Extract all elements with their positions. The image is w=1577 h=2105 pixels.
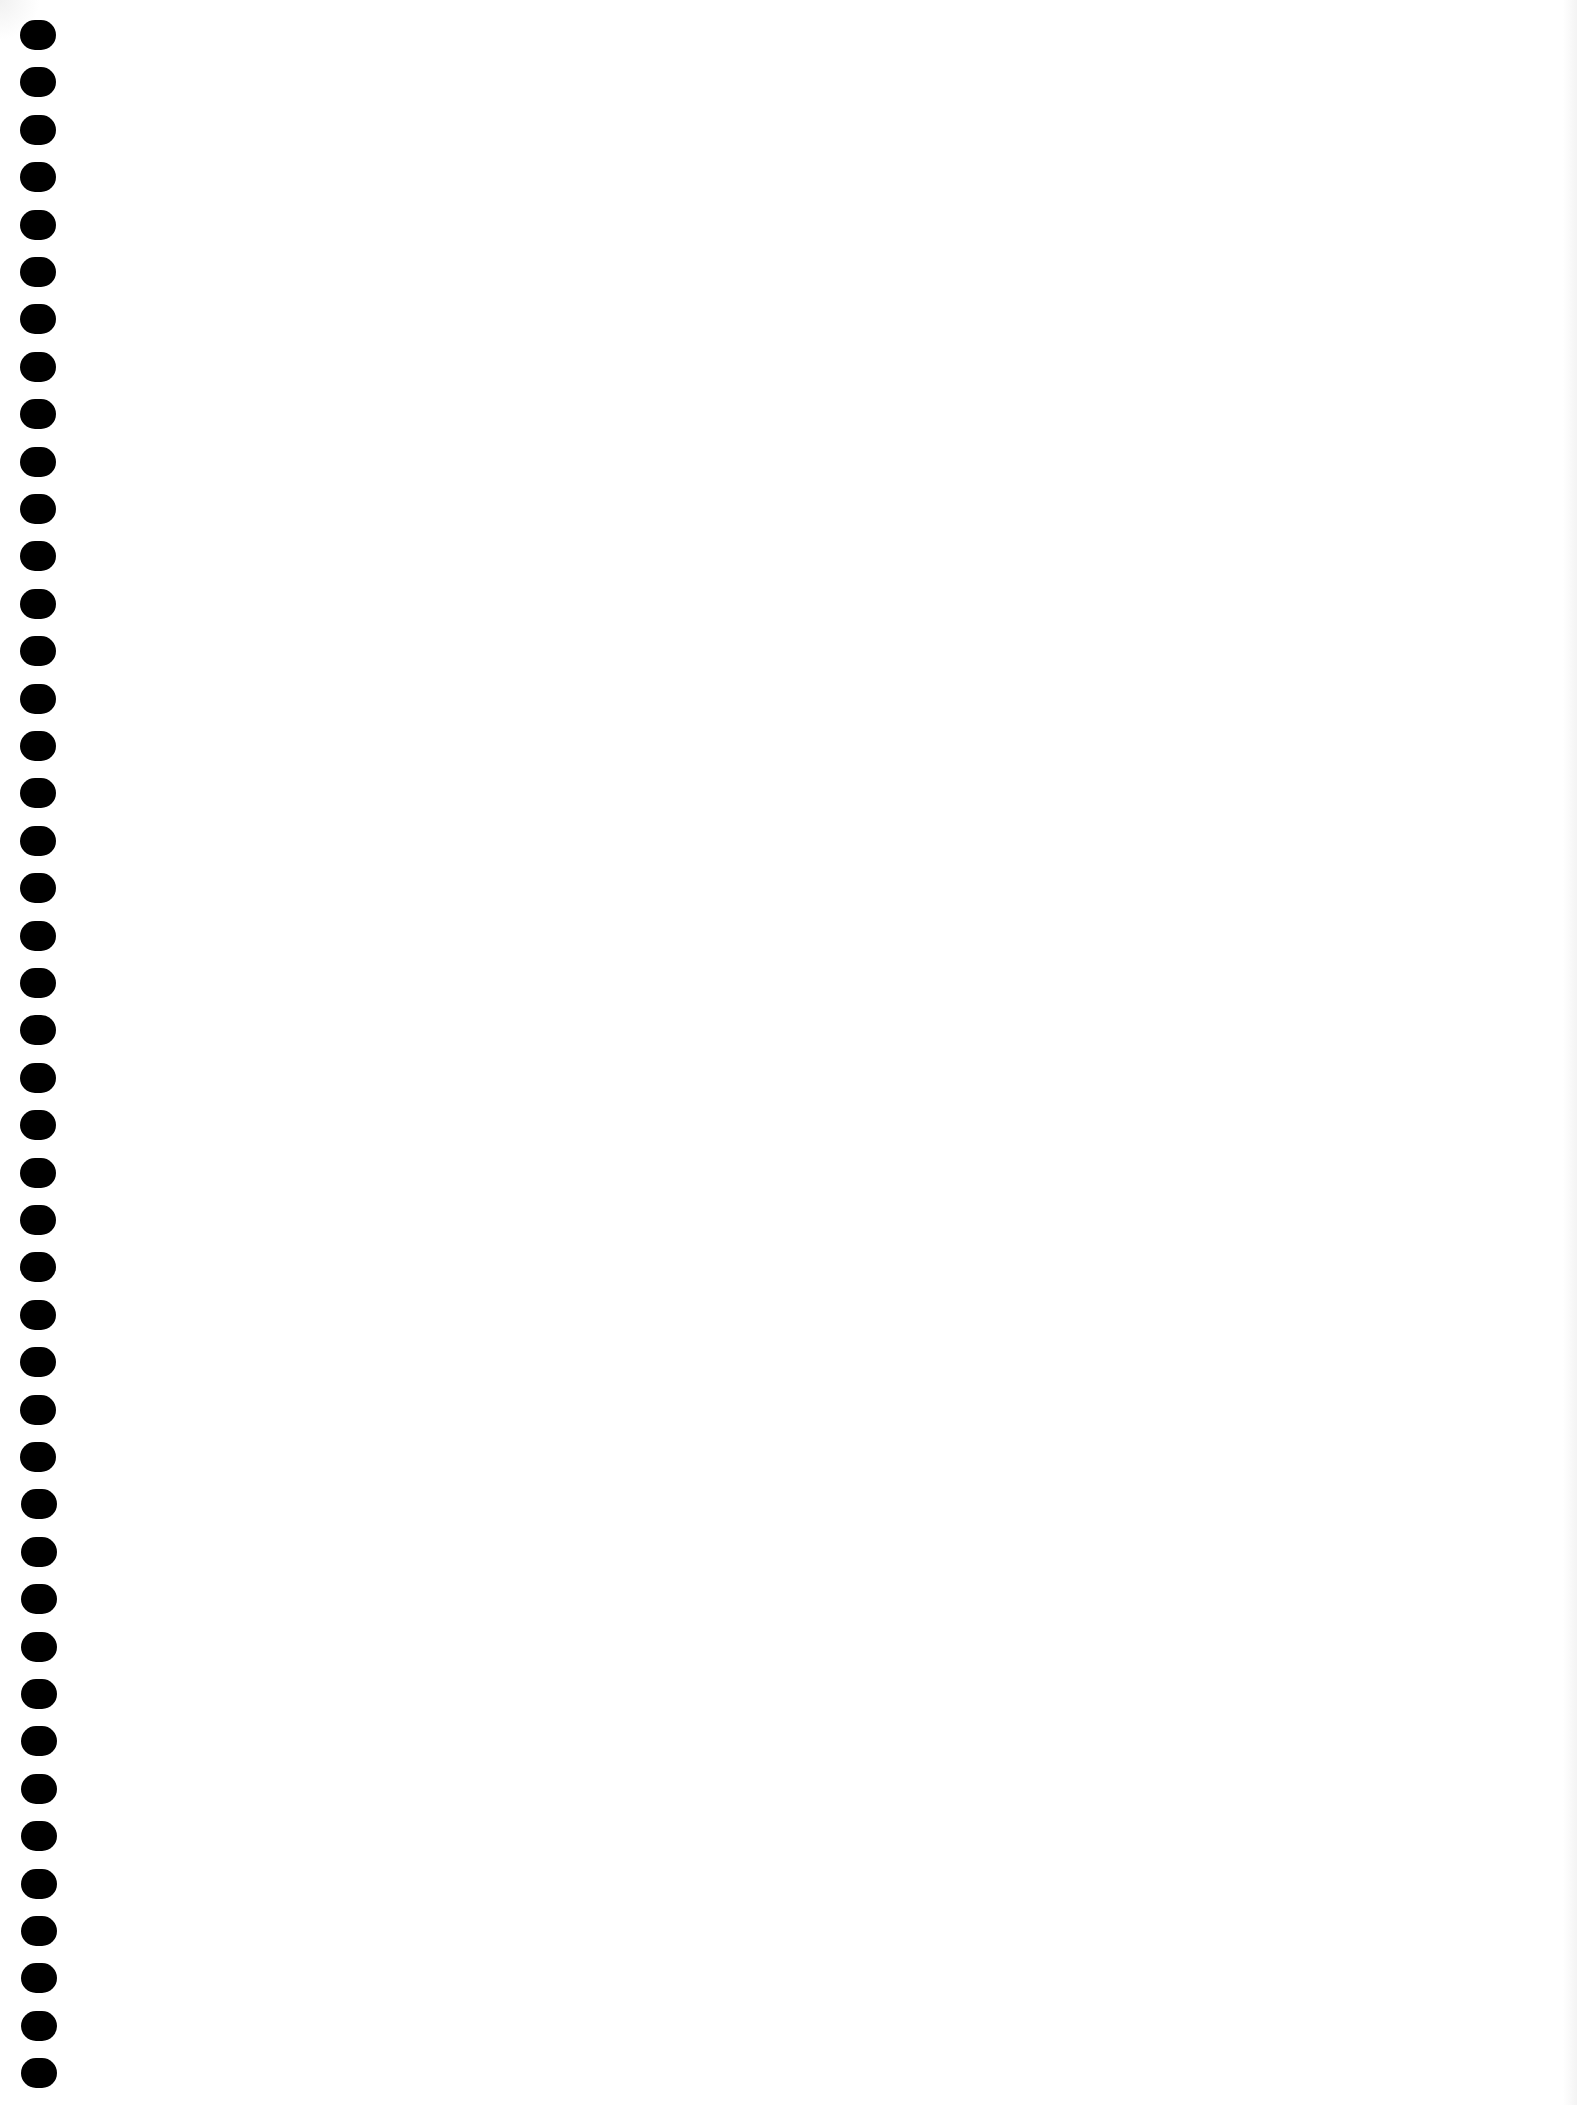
- binding-hole: [20, 684, 56, 714]
- binding-hole: [20, 399, 56, 429]
- binding-hole: [20, 304, 56, 334]
- binding-hole: [21, 1584, 57, 1614]
- binding-hole: [20, 873, 56, 903]
- binding-hole: [20, 1205, 56, 1235]
- binding-hole: [20, 1110, 56, 1140]
- binding-hole: [21, 1869, 57, 1899]
- binding-hole: [20, 778, 56, 808]
- binding-hole: [20, 731, 56, 761]
- notebook-page: [0, 0, 1577, 2105]
- binding-hole: [20, 1395, 56, 1425]
- binding-hole: [20, 162, 56, 192]
- binding-hole: [21, 2058, 57, 2088]
- binding-hole: [20, 1063, 56, 1093]
- binding-hole: [21, 1726, 57, 1756]
- binding-hole: [20, 494, 56, 524]
- binding-hole: [21, 1679, 57, 1709]
- binding-hole: [20, 1158, 56, 1188]
- binding-hole: [20, 447, 56, 477]
- binding-hole: [20, 541, 56, 571]
- binding-hole: [20, 968, 56, 998]
- binding-hole: [21, 1963, 57, 1993]
- binding-hole: [21, 1821, 57, 1851]
- binding-hole: [20, 20, 56, 50]
- binding-hole: [21, 1632, 57, 1662]
- binding-hole: [20, 1015, 56, 1045]
- binding-hole: [20, 115, 56, 145]
- binding-hole: [21, 1774, 57, 1804]
- binding-hole: [20, 826, 56, 856]
- binding-hole: [20, 1347, 56, 1377]
- spiral-binding-holes: [20, 0, 60, 2080]
- binding-hole: [20, 257, 56, 287]
- binding-hole: [20, 921, 56, 951]
- binding-hole: [21, 1537, 57, 1567]
- binding-hole: [20, 352, 56, 382]
- binding-hole: [20, 1252, 56, 1282]
- binding-hole: [20, 1442, 56, 1472]
- binding-hole: [21, 2011, 57, 2041]
- binding-hole: [20, 210, 56, 240]
- binding-hole: [21, 1916, 57, 1946]
- binding-hole: [21, 1489, 57, 1519]
- page-edge-shadow: [1563, 0, 1577, 2105]
- binding-hole: [20, 67, 56, 97]
- binding-hole: [20, 1300, 56, 1330]
- binding-hole: [20, 589, 56, 619]
- binding-hole: [20, 636, 56, 666]
